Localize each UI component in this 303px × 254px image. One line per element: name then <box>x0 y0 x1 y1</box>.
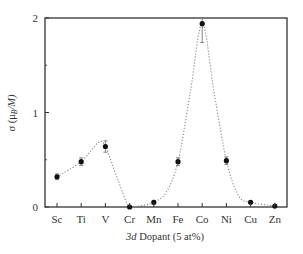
x-tick-label: Ni <box>221 213 232 225</box>
data-point-v <box>103 144 108 149</box>
data-point-ni <box>224 158 229 163</box>
plot-border <box>45 18 287 207</box>
x-tick-label: V <box>101 213 109 225</box>
x-tick-label: Cr <box>124 213 135 225</box>
x-label-italic: 3d <box>125 231 137 242</box>
data-point-fe <box>175 159 180 164</box>
x-axis-label: 3d Dopant (5 at%) <box>125 231 204 243</box>
dotted-fit-line <box>57 24 275 207</box>
x-tick-label: Ti <box>77 213 86 225</box>
chart: ScTiVCrMnFeCoNiCuZn 012 3d Dopant (5 at%… <box>0 0 303 254</box>
y-axis-ticks: 012 <box>33 12 50 213</box>
x-axis-ticks: ScTiVCrMnFeCoNiCuZn <box>52 203 282 225</box>
x-tick-label: Sc <box>52 213 63 225</box>
x-tick-label: Zn <box>269 213 282 225</box>
data-point-sc <box>54 174 59 179</box>
y-tick-label: 2 <box>33 12 39 24</box>
plot-frame <box>45 18 287 207</box>
y-tick-label: 1 <box>33 107 39 119</box>
data-points <box>54 18 277 210</box>
data-point-co <box>200 21 205 26</box>
fit-curve <box>57 24 275 207</box>
x-tick-label: Cu <box>244 213 257 225</box>
x-tick-label: Mn <box>146 213 162 225</box>
y-axis-label: σ (μB/M) <box>6 94 19 132</box>
x-label-rest: Dopant (5 at%) <box>137 231 205 243</box>
x-tick-label: Fe <box>173 213 184 225</box>
data-point-ti <box>79 159 84 164</box>
x-tick-label: Co <box>196 213 209 225</box>
y-tick-label: 0 <box>33 201 39 213</box>
